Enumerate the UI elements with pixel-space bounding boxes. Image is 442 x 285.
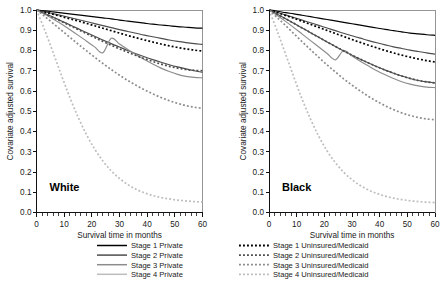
x-tick-label: 30 bbox=[115, 220, 125, 229]
panel-black: 0.00.10.20.30.40.50.60.70.80.91.00102030… bbox=[239, 6, 440, 240]
y-tick-label: 1.0 bbox=[20, 6, 32, 15]
y-tick-label: 0.3 bbox=[253, 148, 265, 157]
y-tick-label: 0.8 bbox=[20, 46, 32, 55]
legend-item: Stage 2 Private bbox=[97, 251, 183, 260]
y-tick-label: 0.2 bbox=[253, 168, 265, 177]
curve-white-6 bbox=[37, 10, 203, 71]
legend-label-private-stage3: Stage 3 Private bbox=[131, 261, 183, 270]
legend-item: Stage 4 Uninsured/Medicaid bbox=[239, 270, 368, 279]
curve-black-8 bbox=[269, 10, 435, 203]
y-tick-label: 0.4 bbox=[253, 127, 265, 136]
legend-item: Stage 1 Uninsured/Medicaid bbox=[239, 241, 368, 250]
y-tick-label: 0.0 bbox=[20, 208, 32, 217]
y-tick-label: 0.5 bbox=[253, 107, 265, 116]
y-tick-label: 0.8 bbox=[253, 46, 265, 55]
x-axis-title: Survival time in months bbox=[310, 231, 395, 240]
y-tick-label: 1.0 bbox=[253, 6, 265, 15]
y-tick-label: 0.3 bbox=[20, 148, 32, 157]
y-axis-title: Covariate adjusted survival bbox=[239, 62, 248, 160]
curve-black-3 bbox=[269, 10, 435, 83]
panel-white: 0.00.10.20.30.40.50.60.70.80.91.00102030… bbox=[6, 6, 207, 240]
legend-item: Stage 4 Private bbox=[97, 270, 183, 279]
y-tick-label: 0.9 bbox=[253, 26, 265, 35]
y-tick-label: 0.7 bbox=[20, 67, 32, 76]
x-tick-label: 60 bbox=[198, 220, 208, 229]
legend-label-private-stage1: Stage 1 Private bbox=[131, 241, 183, 250]
x-tick-label: 60 bbox=[430, 220, 440, 229]
legend-label-private-stage2: Stage 2 Private bbox=[131, 251, 183, 260]
curve-black-6 bbox=[269, 10, 435, 83]
x-tick-label: 20 bbox=[87, 220, 97, 229]
x-tick-label: 50 bbox=[403, 220, 413, 229]
y-tick-label: 0.6 bbox=[20, 87, 32, 96]
legend-label-uninsured-stage1: Stage 1 Uninsured/Medicaid bbox=[273, 241, 368, 250]
x-tick-label: 30 bbox=[347, 220, 357, 229]
legend-item: Stage 1 Private bbox=[97, 241, 183, 250]
figure-root: 0.00.10.20.30.40.50.60.70.80.91.00102030… bbox=[0, 0, 442, 285]
legend-label-private-stage4: Stage 4 Private bbox=[131, 270, 183, 279]
legend-item: Stage 3 Uninsured/Medicaid bbox=[239, 261, 368, 270]
y-tick-label: 0.4 bbox=[20, 127, 32, 136]
legend-label-uninsured-stage4: Stage 4 Uninsured/Medicaid bbox=[273, 270, 368, 279]
y-tick-label: 0.7 bbox=[253, 67, 265, 76]
curve-white-8 bbox=[37, 10, 203, 202]
panel-label-white: White bbox=[50, 181, 80, 193]
curve-black-2 bbox=[269, 10, 435, 54]
y-tick-label: 0.0 bbox=[253, 208, 265, 217]
x-tick-label: 0 bbox=[267, 220, 272, 229]
x-tick-label: 50 bbox=[170, 220, 180, 229]
legend-item: Stage 2 Uninsured/Medicaid bbox=[239, 251, 368, 260]
panel-label-black: Black bbox=[282, 181, 312, 193]
y-tick-label: 0.1 bbox=[20, 188, 32, 197]
curve-white-1 bbox=[37, 10, 203, 28]
y-tick-label: 0.9 bbox=[20, 26, 32, 35]
y-tick-label: 0.1 bbox=[253, 188, 265, 197]
legend-label-uninsured-stage2: Stage 2 Uninsured/Medicaid bbox=[273, 251, 368, 260]
x-tick-label: 10 bbox=[292, 220, 302, 229]
legend: Stage 1 PrivateStage 2 PrivateStage 3 Pr… bbox=[97, 241, 368, 279]
legend-item: Stage 3 Private bbox=[97, 261, 183, 270]
curve-black-1 bbox=[269, 10, 435, 35]
legend-label-uninsured-stage3: Stage 3 Uninsured/Medicaid bbox=[273, 261, 368, 270]
y-tick-label: 0.6 bbox=[253, 87, 265, 96]
curve-black-4 bbox=[269, 10, 435, 88]
y-axis-title: Covariate adjusted survival bbox=[6, 62, 15, 160]
x-tick-label: 10 bbox=[60, 220, 70, 229]
x-axis-title: Survival time in months bbox=[77, 231, 162, 240]
x-tick-label: 20 bbox=[320, 220, 330, 229]
x-tick-label: 40 bbox=[143, 220, 153, 229]
x-tick-label: 40 bbox=[375, 220, 385, 229]
curve-white-2 bbox=[37, 10, 203, 44]
x-tick-label: 0 bbox=[34, 220, 39, 229]
curve-black-7 bbox=[269, 10, 435, 120]
curve-white-7 bbox=[37, 10, 203, 108]
y-tick-label: 0.5 bbox=[20, 107, 32, 116]
y-tick-label: 0.2 bbox=[20, 168, 32, 177]
survival-curves-figure: 0.00.10.20.30.40.50.60.70.80.91.00102030… bbox=[0, 0, 442, 285]
